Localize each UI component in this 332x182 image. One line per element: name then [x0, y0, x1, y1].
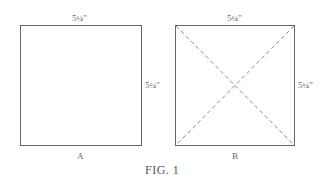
- figure-1: 5¼" 5¼" A 5¼" 5¼" B FIG. 1: [0, 0, 332, 182]
- square-b-top-dimension: 5¼": [227, 13, 242, 23]
- figure-drawing: [0, 0, 332, 182]
- square-b-label: B: [232, 151, 238, 161]
- square-a-top-dimension: 5¼": [72, 13, 87, 23]
- square-a-side-dimension: 5¼": [145, 80, 160, 90]
- square-a: [21, 26, 142, 146]
- square-a-label: A: [77, 151, 84, 161]
- square-b-side-dimension: 5¼": [298, 80, 313, 90]
- figure-caption: FIG. 1: [145, 163, 179, 178]
